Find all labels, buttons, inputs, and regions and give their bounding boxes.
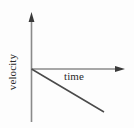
velocity-time-graph: velocity time: [0, 0, 134, 128]
y-axis-arrow-icon: [29, 12, 35, 22]
y-axis-label: velocity: [6, 46, 18, 98]
plot-area: [0, 0, 134, 128]
x-axis-arrow-icon: [115, 66, 125, 72]
x-axis-label: time: [64, 70, 84, 82]
